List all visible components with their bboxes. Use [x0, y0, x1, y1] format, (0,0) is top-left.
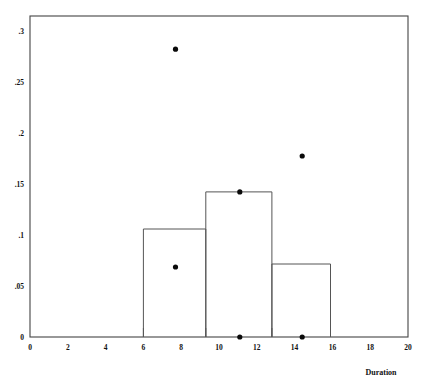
y-tick-label: .05 [15, 282, 25, 291]
plot-canvas: .3 .25 .2 .15 .1 .05 0 0 2 4 6 8 10 12 1… [0, 0, 422, 388]
histogram-bar [272, 264, 331, 337]
data-point [300, 153, 305, 158]
x-tick-label: 10 [215, 343, 223, 352]
histogram-bar [206, 192, 272, 337]
x-axis-title: Duration [365, 368, 397, 377]
data-point [173, 47, 178, 52]
y-tick-label: .1 [18, 231, 24, 240]
x-axis-tick-labels: 0 2 4 6 8 10 12 14 16 18 20 [28, 343, 412, 352]
x-tick-label: 18 [366, 343, 374, 352]
plot-frame [30, 16, 408, 337]
histogram-figure: .3 .25 .2 .15 .1 .05 0 0 2 4 6 8 10 12 1… [0, 0, 422, 388]
data-point [300, 334, 305, 339]
x-tick-label: 4 [104, 343, 108, 352]
y-axis-tick-labels: .3 .25 .2 .15 .1 .05 0 [15, 27, 25, 342]
x-tick-label: 20 [404, 343, 412, 352]
x-tick-label: 16 [329, 343, 337, 352]
x-tick-label: 6 [142, 343, 146, 352]
x-tick-label: 12 [253, 343, 261, 352]
histogram-bar [143, 229, 205, 337]
data-points [173, 47, 305, 340]
x-tick-label: 2 [66, 343, 70, 352]
y-tick-label: .15 [15, 180, 25, 189]
y-tick-label: .3 [18, 27, 24, 36]
data-point [237, 334, 242, 339]
data-point [173, 264, 178, 269]
x-tick-label: 14 [291, 343, 299, 352]
x-tick-label: 8 [179, 343, 183, 352]
y-tick-label: .25 [15, 78, 25, 87]
y-tick-label: 0 [20, 333, 24, 342]
histogram-bars [143, 192, 330, 337]
x-tick-label: 0 [28, 343, 32, 352]
data-point [237, 189, 242, 194]
y-tick-label: .2 [18, 129, 24, 138]
